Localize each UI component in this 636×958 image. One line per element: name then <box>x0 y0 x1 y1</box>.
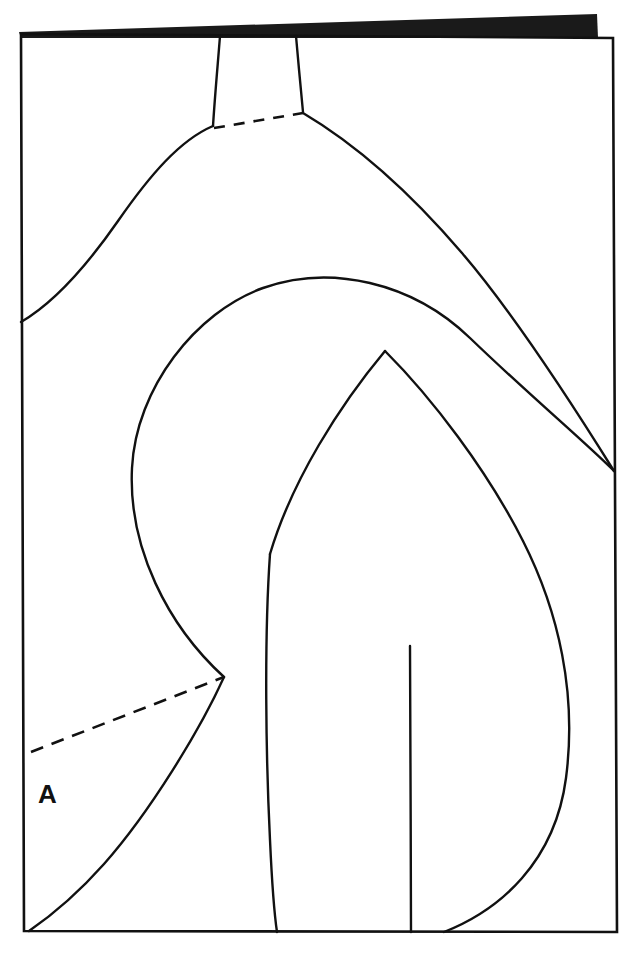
line-drawing-svg: A <box>0 0 636 958</box>
label-a: A <box>38 779 57 809</box>
center-vertical-line <box>410 646 411 932</box>
page-background <box>0 0 636 958</box>
figure-canvas: A <box>0 0 636 958</box>
